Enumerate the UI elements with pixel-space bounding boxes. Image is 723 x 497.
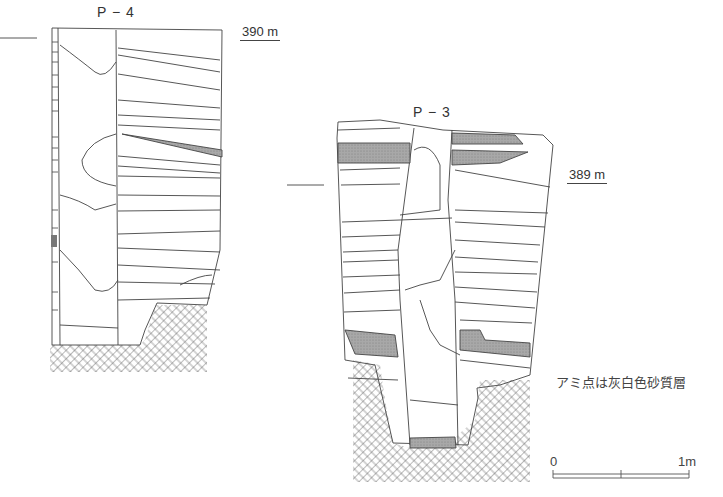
elevation-label-p4: 390 m <box>240 24 280 41</box>
section-p4 <box>0 28 222 372</box>
stratigraphic-section-drawing: P − 4 390 m P − 3 389 m アミ点は灰白色砂質層 0 1m <box>0 0 723 497</box>
elevation-label-p3: 389 m <box>567 167 607 184</box>
scale-start-label: 0 <box>550 454 557 469</box>
section-p3 <box>287 120 553 482</box>
section-label-p4: P − 4 <box>97 4 135 20</box>
section-label-p3: P − 3 <box>413 104 451 120</box>
scale-end-label: 1m <box>678 454 696 469</box>
legend-text: アミ点は灰白色砂質層 <box>556 372 686 391</box>
section-svg <box>0 0 723 497</box>
scale-bar-graphic <box>553 470 689 478</box>
